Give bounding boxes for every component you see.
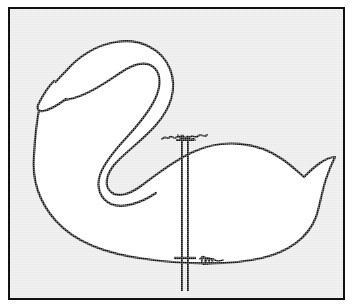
page-title: Swan Lawn Ornament Pattern (0, 21, 1, 22)
swan-diagram (10, 9, 343, 298)
screenshot-root: Swan Lawn Ornament Pattern (0, 0, 353, 308)
swan-body-path (34, 41, 335, 263)
swan-outline (34, 41, 335, 263)
figure-frame (8, 7, 345, 300)
